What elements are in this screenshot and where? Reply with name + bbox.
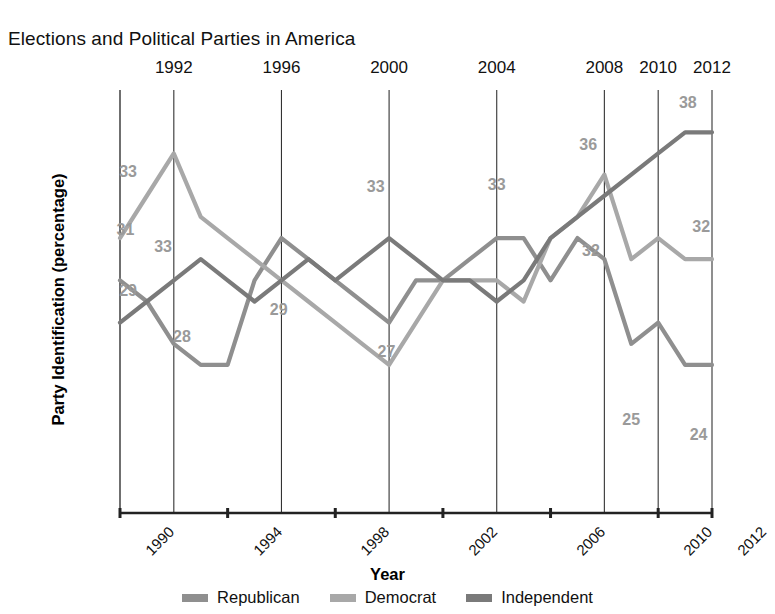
point-label: 29 [119, 282, 137, 300]
point-label: 38 [679, 94, 697, 112]
point-label: 32 [692, 218, 710, 236]
y-axis-label: Party Identification (percentage) [49, 150, 68, 450]
top-tick-1992: 1992 [155, 58, 193, 78]
top-axis-tick-labels: 1992199620002004200820102012 [0, 58, 775, 82]
point-label: 31 [116, 221, 134, 239]
point-label: 28 [173, 328, 191, 346]
x-axis-label: Year [0, 565, 775, 584]
chart-legend: RepublicanDemocratIndependent [0, 588, 775, 607]
point-label: 33 [119, 163, 137, 181]
point-label: 36 [579, 136, 597, 154]
top-tick-2008: 2008 [585, 58, 623, 78]
top-tick-2004: 2004 [478, 58, 516, 78]
legend-label: Independent [501, 588, 593, 607]
point-label: 32 [582, 242, 600, 260]
top-tick-2010: 2010 [639, 58, 677, 78]
legend-item-republican[interactable]: Republican [182, 588, 300, 607]
legend-item-independent[interactable]: Independent [466, 588, 593, 607]
plot-area [0, 0, 775, 614]
chart-title: Elections and Political Parties in Ameri… [8, 28, 355, 50]
chart-figure: Elections and Political Parties in Ameri… [0, 0, 775, 614]
point-label: 33 [367, 178, 385, 196]
legend-swatch-icon [466, 594, 492, 602]
top-tick-2000: 2000 [370, 58, 408, 78]
top-tick-1996: 1996 [263, 58, 301, 78]
point-label: 24 [690, 426, 708, 444]
top-tick-2012: 2012 [693, 58, 731, 78]
point-label: 25 [622, 411, 640, 429]
point-label: 33 [488, 176, 506, 194]
legend-item-democrat[interactable]: Democrat [330, 588, 437, 607]
point-label: 27 [377, 343, 395, 361]
point-label: 29 [270, 301, 288, 319]
legend-label: Republican [217, 588, 300, 607]
point-label: 33 [154, 238, 172, 256]
legend-label: Democrat [365, 588, 437, 607]
legend-swatch-icon [182, 594, 208, 602]
legend-swatch-icon [330, 594, 356, 602]
